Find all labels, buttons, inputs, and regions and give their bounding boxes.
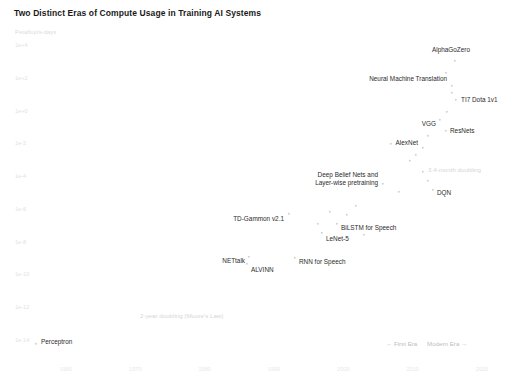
data-point	[336, 223, 338, 225]
data-point	[390, 143, 392, 145]
y-axis-tick: 1e-10	[15, 271, 29, 277]
data-point	[409, 160, 411, 162]
data-point-label: TI7 Dota 1v1	[461, 96, 498, 104]
data-point	[321, 232, 323, 234]
data-point	[363, 234, 365, 236]
x-axis-tick: 2000	[337, 366, 349, 372]
chart-container: Two Distinct Eras of Compute Usage in Tr…	[0, 0, 517, 390]
y-axis-tick: 1e+2	[15, 75, 28, 81]
data-point	[445, 72, 447, 74]
y-axis-tick: 1e-14	[15, 337, 29, 343]
data-point-label: VGG	[422, 120, 436, 128]
data-point	[451, 85, 453, 87]
data-point	[451, 92, 453, 94]
data-point-label: Neural Machine Translation	[369, 75, 447, 83]
data-point	[329, 211, 331, 213]
data-point-label: BiLSTM for Speech	[341, 224, 396, 232]
data-point	[346, 214, 348, 216]
trend-annotation: 3.4-month doubling	[428, 166, 481, 173]
data-point-label: NETtalk	[222, 257, 245, 265]
y-axis-tick: 1e-4	[15, 173, 26, 179]
data-point	[454, 60, 456, 62]
data-point-label: Perceptron	[41, 338, 72, 346]
y-axis-tick: 1e-12	[15, 304, 29, 310]
data-point	[35, 343, 37, 345]
x-axis-tick: 1980	[198, 366, 210, 372]
data-point-label: ALVINN	[251, 266, 274, 274]
trend-annotation: 2-year doubling (Moore's Law)	[140, 312, 223, 319]
y-axis-tick: 1e-2	[15, 140, 26, 146]
data-point	[422, 171, 424, 173]
data-point	[246, 263, 248, 265]
y-axis-tick: 1e-6	[15, 206, 26, 212]
data-point	[432, 189, 434, 191]
data-point-label: Deep Belief Nets andLayer-wise pretraini…	[315, 171, 378, 188]
data-point-label: DQN	[437, 189, 451, 197]
data-point-label: TD-Gammon v2.1	[233, 215, 284, 223]
x-axis-tick: 2020	[476, 366, 488, 372]
data-point	[439, 119, 441, 121]
data-point	[294, 257, 296, 259]
x-axis-tick: 2010	[406, 366, 418, 372]
data-point	[427, 135, 429, 137]
data-point	[455, 99, 457, 101]
y-axis-tick: 1e+4	[15, 42, 28, 48]
data-point	[398, 191, 400, 193]
y-axis-tick: 1e-8	[15, 239, 26, 245]
data-point	[445, 130, 447, 132]
y-axis-tick: 1e+0	[15, 108, 28, 114]
data-point	[248, 256, 250, 258]
data-point	[317, 223, 319, 225]
data-point	[446, 111, 448, 113]
x-axis-tick: 1990	[268, 366, 280, 372]
legend-item[interactable]: Modern Era →	[427, 340, 467, 347]
x-axis-tick: 1970	[129, 366, 141, 372]
legend-item[interactable]: ← First Era	[386, 340, 417, 347]
data-point-label: AlphaGoZero	[432, 46, 470, 54]
data-point-label: ResNets	[450, 127, 475, 135]
data-point-label: LeNet-5	[326, 235, 349, 243]
data-point	[382, 183, 384, 185]
data-point	[288, 213, 290, 215]
x-axis-tick: 1960	[60, 366, 72, 372]
data-point-label: RNN for Speech	[299, 258, 346, 266]
data-point	[355, 205, 357, 207]
plot-area: 1e+41e+21e+01e-21e-41e-61e-81e-101e-121e…	[0, 0, 517, 390]
data-point	[415, 154, 417, 156]
data-point-label: AlexNet	[396, 139, 418, 147]
data-point	[427, 180, 429, 182]
data-point	[422, 147, 424, 149]
